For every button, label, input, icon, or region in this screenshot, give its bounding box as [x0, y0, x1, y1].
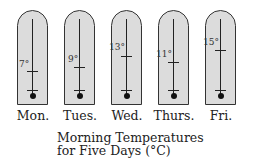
bulb-icon — [124, 93, 130, 99]
temp-label-tues: 9° — [68, 54, 78, 64]
thermometer-stem — [32, 19, 33, 96]
temperature-marker — [121, 56, 132, 57]
thermometer-mon — [17, 10, 48, 105]
base-tick — [27, 90, 38, 91]
base-tick — [74, 90, 85, 91]
thermometer-stem — [173, 19, 174, 96]
temp-label-thurs: 11° — [156, 49, 172, 59]
temp-label-wed: 13° — [109, 42, 125, 52]
day-label-tues: Tues. — [55, 108, 105, 123]
bulb-icon — [171, 93, 177, 99]
thermometer-fri — [205, 10, 236, 105]
thermometer-stem — [220, 19, 221, 96]
day-label-mon: Mon. — [8, 108, 58, 123]
bulb-icon — [218, 93, 224, 99]
temperature-marker — [74, 67, 85, 68]
temperature-marker — [27, 71, 38, 72]
temperature-marker — [215, 50, 226, 51]
day-label-fri: Fri. — [196, 108, 246, 123]
temp-label-fri: 15° — [203, 37, 219, 47]
chart-title-line2: for Five Days (°C) — [57, 144, 204, 157]
chart-title: Morning Temperatures for Five Days (°C) — [57, 131, 204, 157]
day-label-wed: Wed. — [102, 108, 152, 123]
base-tick — [215, 90, 226, 91]
temperature-marker — [168, 62, 179, 63]
thermometer-wed — [111, 10, 142, 105]
thermometer-stem — [79, 19, 80, 96]
base-tick — [121, 90, 132, 91]
bulb-icon — [30, 93, 36, 99]
bulb-icon — [77, 93, 83, 99]
temp-label-mon: 7° — [19, 59, 29, 69]
thermometer-stem — [126, 19, 127, 96]
base-tick — [168, 90, 179, 91]
day-label-thurs: Thurs. — [149, 108, 199, 123]
